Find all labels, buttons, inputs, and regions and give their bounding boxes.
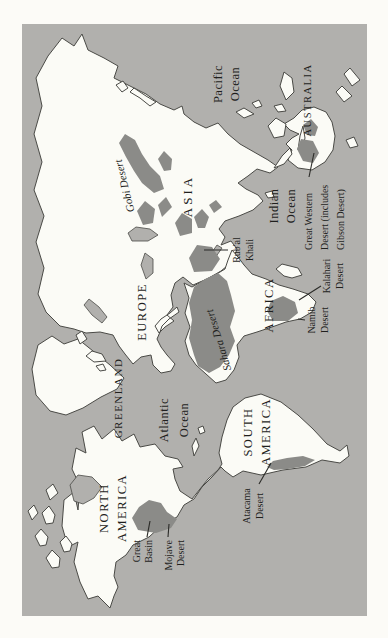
- label-line: EUROPE: [135, 283, 149, 341]
- label-line: AFRICA: [262, 278, 276, 333]
- label-line: AMERICA: [115, 474, 129, 542]
- label-line: Gibson Desert): [335, 189, 347, 250]
- label-line: Desert: [254, 493, 265, 519]
- label-line: Mojave: [163, 539, 174, 570]
- label-line: Ocean: [177, 403, 191, 438]
- label-line: AUSTRALIA: [302, 64, 313, 137]
- label-line: Rub'al: [231, 237, 242, 263]
- label-line: Ocean: [284, 189, 298, 224]
- label-line: Basin: [143, 540, 154, 563]
- label-line: Pacific: [211, 65, 225, 103]
- label-greenland: GREENLAND: [112, 358, 124, 439]
- label-line: Desert: [319, 307, 330, 333]
- label-line: Desert: [175, 540, 186, 566]
- label-great-western-desert: Great Western Desert (includes Gibson De…: [303, 185, 347, 250]
- label-line: Namib: [306, 306, 317, 333]
- label-line: Desert (includes: [319, 185, 331, 250]
- label-line: NORTH: [97, 483, 111, 533]
- book-page: NORTH AMERICA SOUTH AMERICA GREENLAND EU…: [0, 0, 388, 638]
- label-line: GREENLAND: [112, 358, 124, 439]
- label-line: Atacama: [241, 488, 252, 524]
- label-line: SOUTH: [241, 407, 255, 456]
- label-great-basin: Great Basin: [131, 540, 154, 563]
- rotated-world-map: NORTH AMERICA SOUTH AMERICA GREENLAND EU…: [22, 24, 367, 616]
- label-line: Desert: [334, 263, 345, 289]
- label-line: ASIA: [180, 175, 195, 217]
- label-line: Kalahari: [321, 259, 332, 294]
- map-figure: NORTH AMERICA SOUTH AMERICA GREENLAND EU…: [22, 24, 367, 616]
- label-mojave-desert: Mojave Desert: [163, 539, 186, 570]
- label-line: Great Western: [303, 193, 314, 250]
- label-line: Ocean: [228, 67, 242, 102]
- label-line: Khali: [244, 239, 255, 261]
- world-deserts-map-svg: NORTH AMERICA SOUTH AMERICA GREENLAND EU…: [22, 24, 367, 616]
- label-line: Great: [131, 540, 142, 562]
- label-line: AMERICA: [259, 398, 273, 466]
- label-africa: AFRICA: [262, 278, 276, 333]
- label-line: Atlantic: [157, 398, 171, 442]
- label-europe: EUROPE: [135, 283, 149, 341]
- label-line: Indian: [267, 188, 281, 223]
- label-australia: AUSTRALIA: [302, 64, 313, 137]
- label-asia: ASIA: [180, 175, 195, 217]
